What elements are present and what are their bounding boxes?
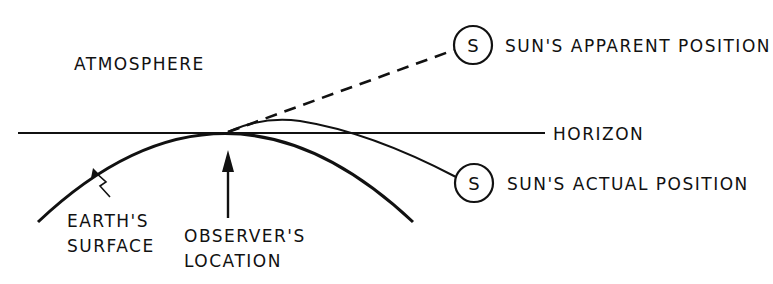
apparent-ray-dashed	[228, 50, 454, 132]
sun-actual-label: SUN'S ACTUAL POSITION	[507, 174, 749, 194]
earth-surface-label-line1: EARTH'S	[67, 211, 149, 231]
atmosphere-label: ATMOSPHERE	[74, 54, 205, 74]
sun-actual-icon: S	[455, 164, 493, 202]
refraction-diagram: S S ATMOSPHERE HORIZON SUN'S APPARENT PO…	[0, 0, 773, 284]
svg-text:S: S	[468, 173, 479, 194]
sun-apparent-label: SUN'S APPARENT POSITION	[505, 36, 771, 56]
earth-surface-label-line2: SURFACE	[67, 236, 155, 256]
observer-arrow-icon	[222, 150, 234, 218]
observer-location-label-line1: OBSERVER'S	[184, 226, 306, 246]
observer-location-label-line2: LOCATION	[184, 251, 282, 271]
earth-surface-arc	[38, 134, 413, 223]
sun-apparent-icon: S	[454, 26, 492, 64]
svg-text:S: S	[467, 35, 478, 56]
horizon-label: HORIZON	[553, 124, 644, 144]
